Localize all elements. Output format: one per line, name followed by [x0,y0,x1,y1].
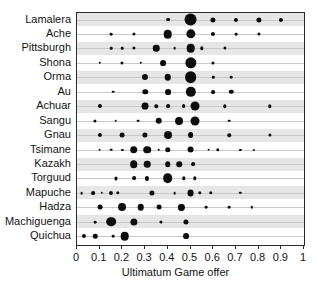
data-bubble [182,104,186,108]
data-bubble [186,29,195,38]
row-baseline [77,178,304,179]
y-axis-label-torguud: Torguud [31,171,71,184]
y-axis-label-au: Au [58,85,71,98]
data-bubble [166,18,170,22]
data-bubble [114,177,117,180]
data-bubble [91,191,95,195]
data-bubble [98,148,101,151]
data-bubble [228,119,231,122]
data-bubble [145,176,149,180]
data-bubble [191,102,200,111]
plot-area [76,12,305,246]
y-axis-label-pittsburgh: Pittsburgh [21,41,71,54]
data-bubble [165,74,172,81]
data-bubble [120,133,125,138]
data-bubble [207,148,210,151]
data-bubble [165,147,171,153]
data-bubble [106,217,116,227]
x-axis-tick [167,245,168,249]
data-bubble [155,117,162,124]
x-axis-tick [190,245,191,249]
data-bubble [120,232,129,241]
data-bubble [175,117,183,125]
y-axis-label-achuar: Achuar [36,99,71,112]
data-bubble [137,204,144,211]
data-bubble [173,47,176,50]
data-bubble [216,148,219,151]
data-bubble [164,131,172,139]
x-axis-title-text: Ultimatum Game offer [88,266,229,278]
y-axis-category-labels: LamaleraAchePittsburghShonaOrmaAuAchuarS… [0,12,74,244]
data-bubble [160,60,166,66]
x-tick-label: 0.8 [250,251,265,263]
data-bubble [142,89,148,95]
data-bubble [178,204,184,210]
data-bubble [176,161,182,167]
data-bubble [182,177,185,180]
x-axis-title: Ultimatum Game offer [0,266,317,278]
x-axis-tick [121,245,122,249]
data-bubble [186,44,195,53]
ultimatum-game-offer-bubble-chart: LamaleraAchePittsburghShonaOrmaAuAchuarS… [0,0,317,284]
data-bubble [212,61,215,64]
data-bubble [164,30,173,39]
data-bubble [193,177,196,180]
x-tick-label: 0.5 [182,251,197,263]
y-axis-label-machiguenga: Machiguenga [5,215,71,228]
y-axis-label-sangu: Sangu [39,114,71,127]
data-bubble [110,33,113,36]
data-bubble [112,235,115,238]
x-tick-label: 0.4 [159,251,174,263]
data-bubble [157,148,160,151]
x-tick-label: 0.2 [114,251,129,263]
y-axis-label-kazakh: Kazakh [34,157,71,170]
data-bubble [144,146,152,154]
data-bubble [82,234,86,238]
data-bubble [185,87,195,97]
data-bubble [137,119,140,122]
y-axis-label-orma: Orma [44,70,72,83]
data-bubble [230,76,233,79]
x-tick-label: 0 [73,251,79,263]
x-tick-label: 0.9 [273,251,288,263]
data-bubble [163,174,173,184]
data-bubble [97,205,102,210]
x-axis-tick [99,245,100,249]
data-bubble [94,119,97,122]
x-axis-tick [235,245,236,249]
data-bubble [205,206,208,209]
data-bubble [121,47,124,50]
data-bubble [187,189,194,196]
row-baseline [77,207,304,208]
data-bubble [173,192,176,195]
x-axis-tick [280,245,281,249]
data-bubble [153,45,160,52]
x-axis-tick [303,245,304,249]
x-axis-tick-labels: 00.10.20.30.40.50.60.70.80.91 [76,251,303,265]
x-axis-tick [144,245,145,249]
data-bubble [166,104,170,108]
data-bubble [112,90,115,93]
y-axis-label-tsimane: Tsimane [30,143,71,156]
data-bubble [93,234,97,238]
data-bubble [211,32,215,36]
y-axis-label-hadza: Hadza [39,200,71,213]
y-axis-label-ache: Ache [46,27,71,40]
data-bubble [235,33,238,36]
x-axis-tick [76,245,77,249]
data-bubble [183,233,189,239]
data-bubble [118,203,126,211]
data-bubble [185,57,196,68]
data-bubble [130,146,138,154]
x-tick-label: 0.6 [205,251,220,263]
data-bubble [110,148,113,151]
data-bubble [132,177,136,181]
y-axis-label-quichua: Quichua [30,229,71,242]
data-bubble [94,220,97,223]
data-bubble [191,116,200,125]
x-tick-label: 0.3 [136,251,151,263]
x-axis-tick [258,245,259,249]
data-bubble [211,90,215,94]
data-bubble [121,61,124,64]
data-bubble [191,162,195,166]
